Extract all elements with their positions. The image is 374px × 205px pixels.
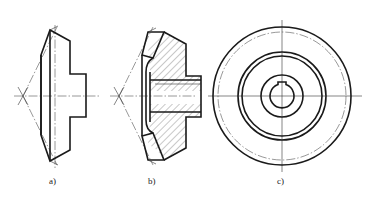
view-a xyxy=(14,25,100,168)
view-c xyxy=(208,20,362,172)
label-view-c: c) xyxy=(277,176,284,186)
bevel-gear-drawing xyxy=(0,0,374,205)
pitch-cone-line-top xyxy=(23,27,57,96)
view-b xyxy=(110,25,205,168)
label-view-a: a) xyxy=(49,176,56,186)
pitch-cone-line-bottom xyxy=(23,96,57,165)
pitch-cone-line-top xyxy=(119,27,153,96)
gear-outline xyxy=(41,30,86,161)
pitch-cone-line-bottom xyxy=(119,96,153,165)
label-view-b: b) xyxy=(148,176,156,186)
